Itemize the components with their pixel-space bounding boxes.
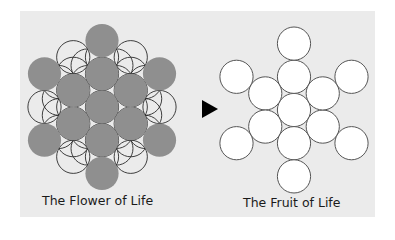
fruit-circle: [335, 60, 368, 93]
fruit-circle: [306, 110, 339, 143]
fruit-circle: [249, 110, 282, 143]
fruit-circle: [277, 93, 310, 126]
fruit-circle: [220, 127, 253, 160]
flower-filled-circle: [85, 124, 118, 157]
flower-filled-circle: [114, 74, 147, 107]
fruit-circle: [277, 27, 310, 60]
flower-filled-circle: [143, 57, 176, 90]
flower-filled-circle: [114, 107, 147, 140]
fruit-circle: [306, 77, 339, 110]
fruit-circle: [277, 160, 310, 193]
flower-filled-circle: [85, 24, 118, 57]
flower-filled-circle: [85, 57, 118, 90]
flower-of-life-figure: [28, 24, 176, 190]
fruit-of-life-caption: The Fruit of Life: [243, 195, 340, 210]
flower-of-life-caption: The Flower of Life: [42, 193, 153, 208]
flower-filled-circle: [57, 107, 90, 140]
flower-filled-circle: [57, 74, 90, 107]
flower-filled-circle: [85, 157, 118, 190]
flower-filled-circle: [85, 90, 118, 123]
flower-filled-circle: [28, 57, 61, 90]
fruit-circle: [277, 60, 310, 93]
triangle-right-icon: [202, 100, 218, 118]
flower-filled-circle: [143, 124, 176, 157]
fruit-circle: [220, 60, 253, 93]
fruit-circle: [249, 77, 282, 110]
fruit-circle: [277, 127, 310, 160]
fruit-circle: [335, 127, 368, 160]
flower-filled-circle: [28, 124, 61, 157]
fruit-of-life-figure: [220, 27, 368, 193]
